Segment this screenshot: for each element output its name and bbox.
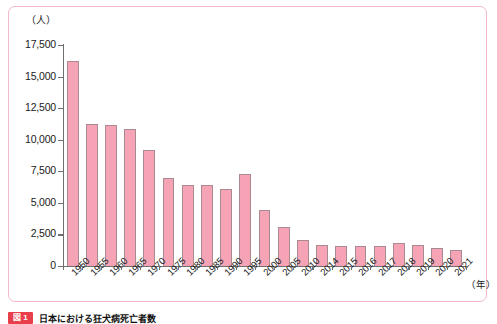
y-axis-tick-label: 0 [4, 259, 56, 271]
x-axis-tick-mark [178, 266, 179, 270]
bar [105, 125, 117, 266]
chart-plot-area: （人） 17,50015,00012,50010,0007,5005,0002,… [0, 0, 497, 324]
x-axis-tick-mark [159, 266, 160, 270]
x-axis-tick-mark [428, 266, 429, 270]
bar-slot [182, 45, 194, 266]
y-axis-tick-mark [58, 45, 63, 46]
bar-series [63, 45, 466, 266]
bar [67, 61, 79, 266]
bar [239, 174, 251, 266]
bar-slot [374, 45, 386, 266]
bar [182, 185, 194, 266]
bar-slot [105, 45, 117, 266]
bar-slot [431, 45, 443, 266]
y-axis-tick-label: 17,500 [4, 38, 56, 50]
bar [163, 178, 175, 266]
x-axis-tick-mark [466, 266, 467, 270]
caption-text: 日本における狂犬病死亡者数 [39, 312, 156, 324]
x-axis-tick-mark [82, 266, 83, 270]
y-axis-tick-label: 12,500 [4, 101, 56, 113]
x-axis-tick-mark [255, 266, 256, 270]
x-axis-tick-mark [121, 266, 122, 270]
y-axis-tick-label: 15,000 [4, 70, 56, 82]
x-axis-tick-mark [197, 266, 198, 270]
x-axis-tick-mark [351, 266, 352, 270]
bar-slot [278, 45, 290, 266]
bar [143, 150, 155, 266]
x-axis-tick-mark [140, 266, 141, 270]
x-axis-tick-mark [274, 266, 275, 270]
bar-slot [412, 45, 424, 266]
x-axis-tick-mark [389, 266, 390, 270]
bar-slot [335, 45, 347, 266]
y-axis-tick-mark [58, 108, 63, 109]
bar-slot [86, 45, 98, 266]
bar-slot [201, 45, 213, 266]
y-axis-tick-mark [58, 234, 63, 235]
y-axis-tick-mark [58, 140, 63, 141]
x-axis-tick-mark [101, 266, 102, 270]
y-axis-tick-mark [58, 203, 63, 204]
x-axis-tick-mark [312, 266, 313, 270]
chart-page: （人） 17,50015,00012,50010,0007,5005,0002,… [0, 0, 497, 324]
bar-slot [67, 45, 79, 266]
x-axis-tick-mark [217, 266, 218, 270]
y-axis-tick-mark [58, 171, 63, 172]
bar-slot [124, 45, 136, 266]
bar-slot [143, 45, 155, 266]
x-axis-unit-label: （年） [466, 277, 496, 291]
bar-slot [393, 45, 405, 266]
bar-slot [355, 45, 367, 266]
x-axis-tick-mark [332, 266, 333, 270]
x-axis-tick-mark [370, 266, 371, 270]
x-axis-tick-mark [447, 266, 448, 270]
bar [124, 129, 136, 266]
x-axis-tick-mark [63, 266, 64, 270]
y-axis-tick-mark [58, 77, 63, 78]
bar-slot [450, 45, 462, 266]
bar [259, 210, 271, 266]
y-axis-tick-label: 10,000 [4, 133, 56, 145]
bar-slot [220, 45, 232, 266]
bar [220, 189, 232, 266]
x-axis-tick-mark [293, 266, 294, 270]
y-axis-tick-label: 7,500 [4, 164, 56, 176]
bar-slot [239, 45, 251, 266]
x-axis-tick-mark [408, 266, 409, 270]
y-axis-tick-label: 5,000 [4, 196, 56, 208]
caption-badge: 図 1 [8, 312, 33, 324]
bar [201, 185, 213, 266]
bar-slot [163, 45, 175, 266]
figure-caption: 図 1 日本における狂犬病死亡者数 [8, 312, 156, 324]
bar-slot [316, 45, 328, 266]
y-axis-tick-labels: 17,50015,00012,50010,0007,5005,0002,5000 [0, 0, 56, 324]
bar-slot [259, 45, 271, 266]
x-axis-tick-mark [236, 266, 237, 270]
bar-slot [297, 45, 309, 266]
bar [86, 124, 98, 266]
y-axis-tick-label: 2,500 [4, 227, 56, 239]
